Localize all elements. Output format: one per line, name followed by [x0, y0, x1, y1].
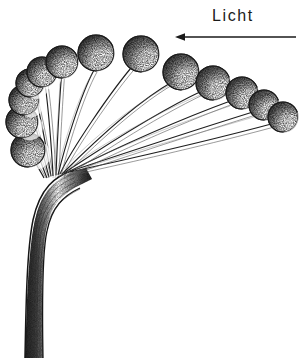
botanical-illustration — [0, 0, 301, 358]
figure-canvas: Licht — [0, 0, 301, 358]
light-direction-label: Licht — [212, 6, 254, 26]
